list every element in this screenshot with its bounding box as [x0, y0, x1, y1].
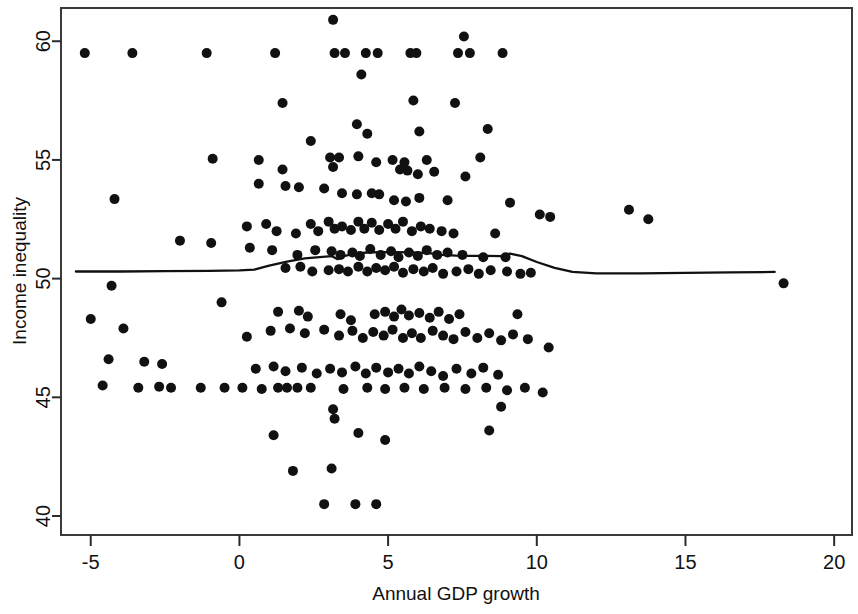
data-point [498, 48, 508, 58]
data-point [361, 369, 371, 379]
data-point [449, 229, 459, 239]
data-point [472, 333, 482, 343]
data-point [353, 151, 363, 161]
data-point [416, 333, 426, 343]
data-point [327, 464, 337, 474]
data-point [334, 264, 344, 274]
data-point [502, 267, 512, 277]
data-point [460, 327, 470, 337]
data-point [307, 267, 317, 277]
data-point [391, 224, 401, 234]
x-tick-label--5: -5 [82, 551, 100, 573]
data-point [206, 238, 216, 248]
data-point [388, 325, 398, 335]
data-point [319, 183, 329, 193]
data-point [356, 69, 366, 79]
data-point [444, 314, 454, 324]
data-point [425, 313, 435, 323]
data-point [380, 265, 390, 275]
data-point [398, 268, 408, 278]
data-point [202, 48, 212, 58]
data-point [336, 309, 346, 319]
y-tick-label-40: 40 [32, 505, 54, 527]
data-point [154, 382, 164, 392]
data-point [426, 366, 436, 376]
data-point [343, 267, 353, 277]
data-point [337, 221, 347, 231]
data-point [133, 383, 143, 393]
data-point [266, 326, 276, 336]
data-point [502, 385, 512, 395]
data-point [306, 136, 316, 146]
data-point [368, 327, 378, 337]
data-point [80, 48, 90, 58]
data-point [478, 252, 488, 262]
y-axis-title: Income inequality [9, 197, 30, 345]
data-point [330, 414, 340, 424]
data-point [208, 154, 218, 164]
data-point [474, 269, 484, 279]
data-point [346, 225, 356, 235]
data-point [438, 269, 448, 279]
data-point [505, 198, 515, 208]
data-point [449, 334, 459, 344]
data-point [352, 119, 362, 129]
data-point [508, 329, 518, 339]
data-point [328, 162, 338, 172]
data-point [324, 265, 334, 275]
data-point [86, 314, 96, 324]
data-point [453, 48, 463, 58]
data-point [371, 263, 381, 273]
data-point [371, 363, 381, 373]
data-point [110, 194, 120, 204]
data-point [334, 153, 344, 163]
data-point [237, 383, 247, 393]
data-point [428, 263, 438, 273]
data-point [267, 245, 277, 255]
data-point [350, 361, 360, 371]
data-point [422, 155, 432, 165]
data-point [270, 48, 280, 58]
data-point [297, 363, 307, 373]
data-point [465, 48, 475, 58]
data-point [425, 224, 435, 234]
data-point [118, 323, 128, 333]
data-point [291, 229, 301, 239]
data-point [515, 269, 525, 279]
data-point [254, 155, 264, 165]
data-point [337, 367, 347, 377]
data-point [306, 219, 316, 229]
data-point [196, 383, 206, 393]
data-point [104, 354, 114, 364]
data-point [352, 189, 362, 199]
data-point [278, 164, 288, 174]
y-tick-label-55: 55 [32, 149, 54, 171]
data-point [624, 205, 634, 215]
x-tick-label-5: 5 [383, 551, 394, 573]
y-tick-label-45: 45 [32, 386, 54, 408]
data-point [414, 193, 424, 203]
data-point [454, 309, 464, 319]
data-point [414, 308, 424, 318]
chart-canvas: 4045505560 -505101520 Income inequality … [0, 0, 858, 614]
data-point [481, 383, 491, 393]
data-point [353, 262, 363, 272]
data-point [358, 333, 368, 343]
data-point [404, 369, 414, 379]
data-point [374, 189, 384, 199]
data-point [414, 361, 424, 371]
data-point [282, 383, 292, 393]
data-point [157, 359, 167, 369]
data-point [526, 268, 536, 278]
data-point [261, 219, 271, 229]
data-point [220, 383, 230, 393]
data-point [438, 371, 448, 381]
data-point [373, 48, 383, 58]
data-point [310, 245, 320, 255]
data-point [389, 195, 399, 205]
x-tick-label-20: 20 [823, 551, 845, 573]
data-point [346, 315, 356, 325]
data-point [466, 369, 476, 379]
data-point [544, 342, 554, 352]
data-point [443, 195, 453, 205]
